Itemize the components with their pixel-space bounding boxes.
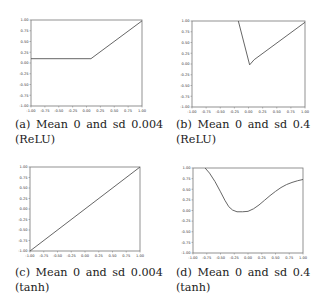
- x-tick-label: -0.50: [216, 256, 226, 260]
- y-tick-label: -1.00: [181, 251, 191, 255]
- y-tick-label: 0.50: [182, 188, 191, 192]
- x-tick-label: 0.50: [271, 256, 280, 260]
- y-tick-label: 0.00: [182, 209, 191, 213]
- x-tick-label: 0.75: [285, 256, 293, 260]
- y-tick-label: -0.25: [181, 219, 190, 223]
- y-tick-label: 0.75: [182, 177, 190, 181]
- x-tick-label: -0.75: [202, 256, 211, 260]
- x-tick-label: -0.25: [230, 256, 239, 260]
- x-tick-label: 0.00: [244, 256, 253, 260]
- x-tick-label: 0.25: [258, 256, 266, 260]
- chart-d: -1.00-0.75-0.50-0.250.000.250.500.751.00…: [0, 0, 325, 305]
- plot-frame: [193, 168, 303, 253]
- data-line: [205, 168, 303, 212]
- caption-d: (d) Mean 0 and sd 0.4 (tanh): [176, 265, 310, 295]
- y-tick-label: -0.75: [181, 241, 190, 245]
- y-tick-label: 0.25: [182, 198, 190, 202]
- x-tick-label: -1.00: [188, 256, 198, 260]
- y-tick-label: -0.50: [181, 230, 191, 234]
- y-tick-label: 1.00: [182, 166, 191, 170]
- caption-d-line1: (d) Mean 0 and sd 0.4: [176, 265, 310, 280]
- x-tick-label: 1.00: [299, 256, 308, 260]
- caption-d-line2: (tanh): [176, 280, 310, 295]
